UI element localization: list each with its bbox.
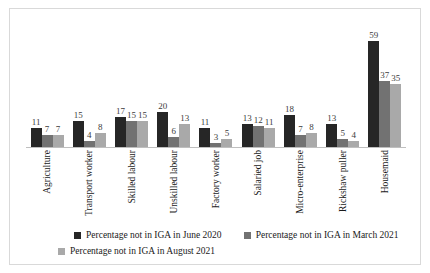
bar-value-label: 7: [56, 125, 61, 134]
chart-legend: Percentage not in IGA in June 2020 Perce…: [30, 227, 410, 265]
bar[interactable]: [73, 121, 84, 148]
bar-group: 1177: [26, 15, 68, 148]
bar-group: 593735: [364, 15, 406, 148]
bar[interactable]: [157, 112, 168, 148]
category-axis-line: [26, 147, 406, 148]
legend-swatch-icon: [58, 248, 65, 255]
category-label: Transport worker: [84, 150, 94, 216]
bar-value-label: 35: [391, 74, 400, 83]
bar-value-label: 20: [158, 102, 167, 111]
bar-slot: 7: [42, 15, 53, 148]
bar[interactable]: [137, 121, 148, 148]
bar-value-label: 18: [285, 105, 294, 114]
category-label: Unskilled labour: [169, 150, 179, 214]
legend-swatch-icon: [244, 232, 251, 239]
bar-slot: 13: [242, 15, 253, 148]
legend-item-june-2020[interactable]: Percentage not in IGA in June 2020: [74, 230, 222, 241]
category-label-cell: Rickshaw puller: [322, 150, 364, 222]
bar-slot: 7: [295, 15, 306, 148]
bar[interactable]: [242, 124, 253, 148]
category-label-cell: Micro-enterprise: [279, 150, 321, 222]
bar-slot: 4: [84, 15, 95, 148]
bar-group: 1878: [279, 15, 321, 148]
category-label-cell: Unskilled labour: [153, 150, 195, 222]
bar-value-label: 8: [98, 123, 103, 132]
bar-value-label: 5: [340, 129, 345, 138]
bar-slot: 8: [306, 15, 317, 148]
bar[interactable]: [264, 128, 275, 148]
bar[interactable]: [179, 124, 190, 148]
bar-slot: 13: [179, 15, 190, 148]
bar-value-label: 15: [138, 111, 147, 120]
bar-slot: 13: [326, 15, 337, 148]
bar-group: 171515: [111, 15, 153, 148]
bar-value-label: 5: [225, 129, 230, 138]
category-label: Skilled labour: [127, 150, 137, 204]
bar[interactable]: [284, 115, 295, 148]
bar-slot: 59: [368, 15, 379, 148]
category-label: Agriculture: [42, 150, 52, 194]
bar-slot: 15: [73, 15, 84, 148]
bar-value-label: 13: [243, 114, 252, 123]
category-label-cell: Salaried job: [237, 150, 279, 222]
bar-value-label: 37: [380, 71, 389, 80]
category-label: Salaried job: [253, 150, 263, 196]
legend-row-second: Percentage not in IGA in August 2021: [30, 243, 410, 259]
legend-label: Percentage not in IGA in August 2021: [70, 246, 215, 257]
bar[interactable]: [306, 133, 317, 148]
bar-slot: 5: [337, 15, 348, 148]
category-label: Micro-enterprise: [295, 150, 305, 214]
bar-slot: 17: [115, 15, 126, 148]
category-label-cell: Factory worker: [195, 150, 237, 222]
legend-label: Percentage not in IGA in June 2020: [86, 230, 222, 241]
bar[interactable]: [379, 81, 390, 148]
bar[interactable]: [126, 121, 137, 148]
category-label: Factory worker: [211, 150, 221, 208]
bar-slot: 20: [157, 15, 168, 148]
bar-value-label: 59: [369, 31, 378, 40]
bar-group: 131211: [237, 15, 279, 148]
category-label: Rickshaw puller: [338, 150, 348, 212]
category-label-cell: Skilled labour: [111, 150, 153, 222]
legend-label: Percentage not in IGA in March 2021: [256, 230, 399, 241]
bar[interactable]: [31, 128, 42, 148]
category-label: Housemaid: [380, 150, 390, 193]
bar-value-label: 12: [254, 116, 263, 125]
bar-slot: 35: [390, 15, 401, 148]
bar-value-label: 4: [351, 131, 356, 140]
legend-item-august-2021[interactable]: Percentage not in IGA in August 2021: [58, 246, 215, 257]
bar-group: 1548: [68, 15, 110, 148]
bar[interactable]: [368, 41, 379, 148]
plot-area: 1177154817151520613113513121118781354593…: [26, 15, 406, 148]
category-label-cell: Housemaid: [364, 150, 406, 222]
legend-row-first: Percentage not in IGA in June 2020 Perce…: [30, 227, 410, 243]
bar-value-label: 13: [180, 114, 189, 123]
bar-slot: 11: [264, 15, 275, 148]
bar-group: 20613: [153, 15, 195, 148]
bar-value-label: 17: [116, 107, 125, 116]
bar-value-label: 8: [309, 123, 314, 132]
bar[interactable]: [390, 84, 401, 148]
bar-slot: 11: [31, 15, 42, 148]
bar-value-label: 15: [74, 111, 83, 120]
bar-slot: 12: [253, 15, 264, 148]
bar-slot: 37: [379, 15, 390, 148]
bar-value-label: 7: [298, 125, 303, 134]
bar[interactable]: [95, 133, 106, 148]
bar-slot: 15: [137, 15, 148, 148]
bar-groups-container: 1177154817151520613113513121118781354593…: [26, 15, 406, 148]
bar-value-label: 15: [127, 111, 136, 120]
bar-slot: 18: [284, 15, 295, 148]
bar[interactable]: [115, 117, 126, 148]
chart-figure: 1177154817151520613113513121118781354593…: [0, 0, 430, 273]
bar[interactable]: [253, 126, 264, 148]
chart-frame-border: 1177154817151520613113513121118781354593…: [9, 8, 421, 265]
bar-slot: 3: [210, 15, 221, 148]
bar[interactable]: [326, 124, 337, 148]
legend-swatch-icon: [74, 232, 81, 239]
legend-item-march-2021[interactable]: Percentage not in IGA in March 2021: [244, 230, 399, 241]
bar-group: 1135: [195, 15, 237, 148]
bar-slot: 7: [53, 15, 64, 148]
bar[interactable]: [199, 128, 210, 148]
bar-slot: 11: [199, 15, 210, 148]
